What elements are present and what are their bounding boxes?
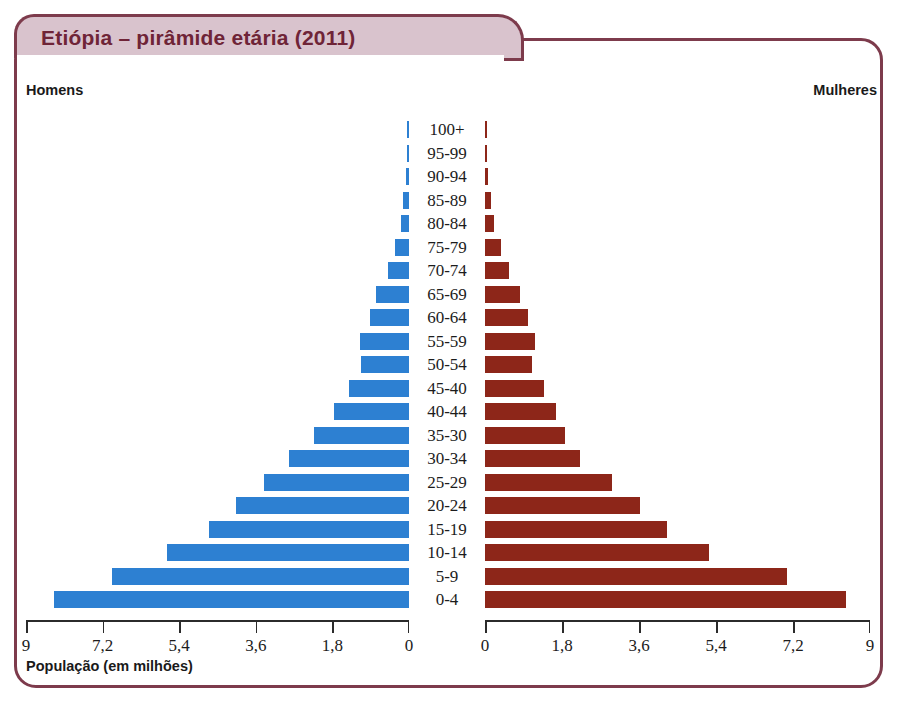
- axis-tick-label: 0: [458, 636, 512, 656]
- female-bar: [485, 591, 846, 608]
- male-bar-row: [26, 447, 409, 471]
- age-group-label: 35-30: [409, 424, 485, 448]
- axis-tick: [408, 620, 410, 633]
- axis-tick-label: 1,8: [305, 636, 359, 656]
- age-group-label: 50-54: [409, 353, 485, 377]
- male-bar-row: [26, 400, 409, 424]
- age-group-label: 10-14: [409, 541, 485, 565]
- axis-tick-label: 3,6: [229, 636, 283, 656]
- male-bar: [370, 309, 409, 326]
- male-bar: [334, 403, 409, 420]
- female-bar: [485, 544, 709, 561]
- male-bar: [361, 356, 409, 373]
- male-bar-row: [26, 565, 409, 589]
- female-bar: [485, 262, 509, 279]
- female-bar-row: [485, 118, 870, 142]
- male-bar-row: [26, 259, 409, 283]
- male-bar: [289, 450, 409, 467]
- male-bar: [388, 262, 409, 279]
- female-bar: [485, 427, 565, 444]
- female-bar-row: [485, 306, 870, 330]
- population-pyramid-figure: Etiópia – pirâmide etária (2011) Homens …: [0, 0, 901, 707]
- female-bar-row: [485, 165, 870, 189]
- female-bar: [485, 497, 640, 514]
- male-bar-row: [26, 306, 409, 330]
- male-bar: [264, 474, 409, 491]
- axis-tick-label: 5,4: [152, 636, 206, 656]
- female-bar-row: [485, 447, 870, 471]
- axis-tick: [332, 620, 334, 633]
- age-group-label: 90-94: [409, 165, 485, 189]
- female-bars-panel: [485, 118, 870, 618]
- axis-tick-label: 9: [843, 636, 897, 656]
- age-group-label: 45-40: [409, 377, 485, 401]
- female-bar-row: [485, 424, 870, 448]
- male-bar: [349, 380, 409, 397]
- male-bar-row: [26, 588, 409, 612]
- age-group-label: 100+: [409, 118, 485, 142]
- axis-tick-label: 3,6: [612, 636, 666, 656]
- age-group-label: 95-99: [409, 142, 485, 166]
- female-bar: [485, 474, 612, 491]
- female-bar: [485, 380, 544, 397]
- axis-tick-label: 1,8: [535, 636, 589, 656]
- age-group-label: 70-74: [409, 259, 485, 283]
- right-x-axis: [485, 620, 870, 634]
- age-group-label: 80-84: [409, 212, 485, 236]
- legend-female-caption: Mulheres: [813, 82, 877, 98]
- female-bar: [485, 521, 667, 538]
- page-title: Etiópia – pirâmide etária (2011): [41, 26, 356, 50]
- female-bar-row: [485, 330, 870, 354]
- male-bar: [376, 286, 409, 303]
- female-bar-row: [485, 518, 870, 542]
- title-tab-joint: [17, 55, 504, 63]
- age-group-label: 30-34: [409, 447, 485, 471]
- age-group-label: 20-24: [409, 494, 485, 518]
- female-bar-row: [485, 400, 870, 424]
- female-bar: [485, 450, 580, 467]
- male-bar-row: [26, 424, 409, 448]
- age-group-label: 60-64: [409, 306, 485, 330]
- male-bar: [167, 544, 409, 561]
- female-bar: [485, 309, 528, 326]
- axis-tick: [103, 620, 105, 633]
- male-bar-row: [26, 236, 409, 260]
- axis-tick-label: 7,2: [76, 636, 130, 656]
- axis-tick: [793, 620, 795, 633]
- male-bar: [236, 497, 409, 514]
- male-bar: [360, 333, 409, 350]
- male-bar: [395, 239, 409, 256]
- male-bar: [54, 591, 409, 608]
- axis-line: [485, 620, 870, 622]
- male-bar-row: [26, 330, 409, 354]
- axis-tick: [256, 620, 258, 633]
- female-bar: [485, 403, 556, 420]
- female-bar: [485, 239, 501, 256]
- female-bar-row: [485, 283, 870, 307]
- male-bar-row: [26, 118, 409, 142]
- age-group-label: 15-19: [409, 518, 485, 542]
- female-bar-row: [485, 541, 870, 565]
- female-bar: [485, 192, 491, 209]
- female-bar-row: [485, 377, 870, 401]
- female-bar-row: [485, 142, 870, 166]
- female-bar: [485, 168, 488, 185]
- axis-tick-label: 9: [0, 636, 53, 656]
- female-bar-row: [485, 353, 870, 377]
- age-group-label: 5-9: [409, 565, 485, 589]
- female-bar-row: [485, 236, 870, 260]
- male-bar: [314, 427, 409, 444]
- male-bar-row: [26, 377, 409, 401]
- male-bar: [112, 568, 409, 585]
- axis-tick: [562, 620, 564, 633]
- female-bar-row: [485, 471, 870, 495]
- male-bars-panel: [26, 118, 409, 618]
- axis-tick: [485, 620, 487, 633]
- age-group-label: 25-29: [409, 471, 485, 495]
- axis-tick: [716, 620, 718, 633]
- male-bar-row: [26, 518, 409, 542]
- female-bar: [485, 286, 520, 303]
- male-bar: [401, 215, 409, 232]
- age-group-label: 65-69: [409, 283, 485, 307]
- male-bar-row: [26, 189, 409, 213]
